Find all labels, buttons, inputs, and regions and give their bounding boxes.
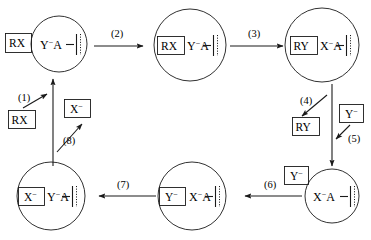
arrow-step-3: (3) xyxy=(230,28,283,46)
reagent-box-y-minus-bottom: Y− xyxy=(285,167,309,185)
arrow-step-3-label: (3) xyxy=(248,28,261,40)
reagent-box-rx-outer-left-text: RX xyxy=(9,37,26,49)
diagram-canvas: Y−A RX (2) RX Y−A (3) xyxy=(0,0,371,240)
reagent-box-y-minus-bottom-text: Y− xyxy=(290,169,303,182)
reagent-box-y-minus-right: Y− xyxy=(340,105,364,123)
reagent-box-x-minus-left: X− xyxy=(65,100,91,118)
reagent-box-rx-lower-left: RX xyxy=(9,111,36,129)
reagent-box-rx-outer-left: RX xyxy=(6,34,32,53)
node-bottom-center: Y− X−A xyxy=(158,162,226,230)
node-top-left: Y−A xyxy=(31,16,87,72)
node-top-right-box-ry-text: RY xyxy=(294,40,310,52)
node-bottom-right-label: X−A xyxy=(313,190,335,204)
node-top-center: RX Y−A xyxy=(154,9,226,81)
arrow-step-1: (1) xyxy=(18,92,47,108)
reagent-box-rx-lower-left-text: RX xyxy=(12,114,29,126)
reaction-cycle-diagram: Y−A RX (2) RX Y−A (3) xyxy=(0,0,371,240)
arrow-step-8-label: (8) xyxy=(63,135,76,147)
reagent-box-x-minus-left-text: X− xyxy=(70,102,83,115)
node-top-right: RY X−A xyxy=(285,8,359,82)
reagent-box-ry: RY xyxy=(293,118,320,136)
arrow-step-5-label: (5) xyxy=(348,133,361,145)
reagent-box-ry-text: RY xyxy=(296,121,312,133)
arrow-step-1-label: (1) xyxy=(18,92,31,104)
node-bottom-center-box-y-text: Y− xyxy=(165,190,178,203)
arrow-step-4-label: (4) xyxy=(300,95,313,107)
node-top-center-box-rx-text: RX xyxy=(161,40,178,52)
node-bottom-right: X−A xyxy=(305,169,359,223)
arrow-step-6-label: (6) xyxy=(264,179,277,191)
reagent-box-y-minus-right-text: Y− xyxy=(345,107,358,120)
node-bottom-left-box-x-text: X− xyxy=(24,190,37,203)
arrow-step-2-label: (2) xyxy=(111,28,124,40)
arrow-step-7: (7) xyxy=(99,179,156,196)
node-bottom-left: X− Y−A xyxy=(17,162,85,230)
arrow-step-4: (4) xyxy=(300,95,327,116)
arrow-step-2: (2) xyxy=(94,28,143,46)
arrow-step-8: (8) xyxy=(57,124,82,152)
arrow-step-5: (5) xyxy=(336,125,361,145)
node-top-left-label: Y−A xyxy=(40,38,62,52)
arrow-step-7-label: (7) xyxy=(117,179,130,191)
